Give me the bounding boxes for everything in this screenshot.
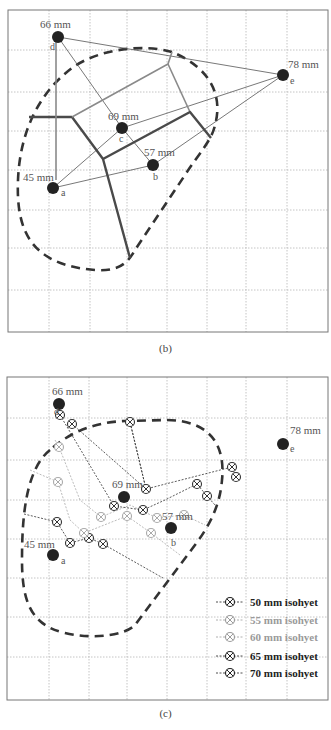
legend-item: 65 mm isohyet [216,650,318,662]
station-dot-icon [47,549,59,561]
isohyet-line [72,422,236,489]
isohyet-marker-icon [226,598,235,607]
isohyet-marker-icon [226,633,235,642]
rain-gauge-station-c: 69 mmc [108,110,139,144]
station-id-label: d [50,41,55,52]
isohyet-marker-icon [228,463,237,472]
rain-gauge-station-c: 69 mm [112,478,143,503]
station-rainfall-label: 78 mm [290,424,321,436]
station-id-label: e [290,443,295,454]
legend-item: 60 mm isohyet [216,631,318,643]
triangulation-line [53,165,153,188]
thiessen-polygon-edge [29,117,130,258]
legend-label: 65 mm isohyet [250,650,318,662]
station-dot-icon [277,69,289,81]
legend-label: 55 mm isohyet [250,614,318,626]
isohyet-70mm [68,418,241,494]
panel-c-caption: (c) [0,707,331,719]
catchment-boundary [18,48,218,270]
legend: 50 mm isohyet55 mm isohyet60 mm isohyet6… [216,596,318,679]
isohyet-marker-icon [55,443,64,452]
station-rainfall-label: 69 mm [112,478,143,490]
station-rainfall-label: 45 mm [24,538,55,550]
rain-gauge-station-d: 66 mmd [52,385,83,417]
rainfall-diagram: 66 mmd78 mme69 mmc57 mmb45 mma 66 mmd78 … [0,0,331,730]
thiessen-polygon-edge [72,52,172,117]
isohyet-marker-icon [110,502,119,511]
catchment-boundary [22,420,222,636]
station-rainfall-label: 57 mm [144,146,175,158]
legend-label: 50 mm isohyet [250,596,318,608]
isohyet-marker-icon [80,529,89,538]
panel-c-isohyetal-map: 66 mmd78 mme69 mm57 mmb45 mma50 mm isohy… [7,377,328,700]
station-dot-icon [118,491,130,503]
station-id-label: d [54,406,59,417]
station-dot-icon [165,522,177,534]
legend-item: 70 mm isohyet [216,667,318,679]
isohyet-marker-icon [226,616,235,625]
isohyet-marker-icon [97,513,106,522]
isohyet-marker-icon [123,512,132,521]
legend-item: 50 mm isohyet [216,596,318,608]
station-rainfall-label: 69 mm [108,110,139,122]
isohyet-marker-icon [54,478,63,487]
rain-gauge-station-b: 57 mmb [144,146,175,182]
station-rainfall-label: 66 mm [40,18,71,30]
isohyet-marker-icon [226,652,235,661]
legend-label: 60 mm isohyet [250,631,318,643]
legend-label: 70 mm isohyet [250,667,318,679]
station-id-label: c [119,133,124,144]
rain-gauge-station-a: 45 mma [24,538,66,566]
station-rainfall-label: 78 mm [288,58,319,70]
legend-item: 55 mm isohyet [216,614,318,626]
panel-b-thiessen-polygons: 66 mmd78 mme69 mmc57 mmb45 mma [8,10,328,332]
isohyet-marker-icon [68,420,77,429]
isohyet-marker-icon [126,418,135,427]
station-id-label: a [61,187,66,198]
isohyet-marker-icon [203,492,212,501]
isohyet-marker-icon [153,514,162,523]
isohyet-marker-icon [193,480,202,489]
isohyet-marker-icon [232,473,241,482]
station-rainfall-label: 57 mm [162,510,193,522]
station-id-label: b [171,537,176,548]
isohyet-marker-icon [147,529,156,538]
thiessen-polygon-edge [168,64,190,112]
station-id-label: b [153,171,158,182]
rain-gauge-station-e: 78 mme [277,424,321,454]
isohyet-marker-icon [53,518,62,527]
station-id-label: a [61,555,66,566]
isohyet-marker-icon [226,669,235,678]
station-dot-icon [47,182,59,194]
rain-gauge-station-e: 78 mme [277,58,319,86]
station-id-label: e [290,75,295,86]
panel-b-caption: (b) [0,342,331,354]
rain-gauge-station-a: 45 mma [23,171,66,198]
isohyet-marker-icon [139,506,148,515]
station-rainfall-label: 66 mm [52,385,83,397]
triangulation-line [122,75,283,128]
station-dot-icon [277,438,289,450]
station-dot-icon [147,159,159,171]
isohyet-marker-icon [66,539,75,548]
station-rainfall-label: 45 mm [23,171,54,183]
isohyet-marker-icon [99,540,108,549]
